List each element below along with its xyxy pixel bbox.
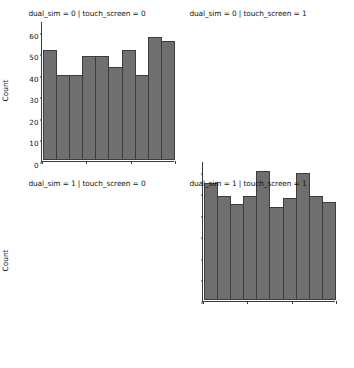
- x-tick-mark: [292, 301, 293, 304]
- x-tick-mark: [336, 301, 337, 304]
- y-tick-label: 50: [29, 54, 42, 61]
- plot-area-0: 0102030405060: [41, 22, 174, 162]
- facet-title-2: dual_sim = 1 | touch_screen = 0: [0, 178, 174, 189]
- bar: [269, 207, 283, 300]
- bar: [296, 173, 310, 300]
- x-tick-mark: [42, 161, 43, 164]
- y-tick-mark: [201, 195, 204, 196]
- y-tick-mark: [201, 173, 204, 174]
- x-tick-mark: [203, 301, 204, 304]
- bar-series-0: [43, 22, 174, 160]
- y-tick-mark: [201, 281, 204, 282]
- y-tick-mark: [201, 216, 204, 217]
- facet-title-0: dual_sim = 0 | touch_screen = 0: [0, 8, 174, 19]
- bar: [95, 56, 109, 160]
- facet-plot-0: 0102030405060: [41, 22, 174, 162]
- y-axis-label-2: Count: [1, 241, 10, 281]
- y-tick-label: 10: [29, 140, 42, 147]
- bar: [161, 41, 175, 160]
- x-tick-mark: [175, 161, 176, 164]
- facet-title-3: dual_sim = 1 | touch_screen = 1: [161, 178, 335, 189]
- bar: [82, 56, 96, 160]
- bar: [309, 196, 323, 300]
- bar: [204, 183, 218, 300]
- y-axis-label-0: Count: [1, 71, 10, 111]
- x-tick-mark: [247, 301, 248, 304]
- bar: [148, 37, 162, 160]
- bar: [322, 202, 336, 300]
- facet-title-1: dual_sim = 0 | touch_screen = 1: [161, 8, 335, 19]
- y-tick-mark: [201, 238, 204, 239]
- x-tick-mark: [86, 161, 87, 164]
- y-tick-label: 30: [29, 97, 42, 104]
- bar: [122, 50, 136, 160]
- bar: [230, 204, 244, 300]
- bar: [217, 196, 231, 300]
- bar: [69, 75, 83, 160]
- y-tick-label: 20: [29, 119, 42, 126]
- bar: [243, 196, 257, 300]
- bar: [43, 50, 57, 160]
- histogram-facet-grid: dual_sim = 0 | touch_screen = 0010203040…: [0, 0, 354, 368]
- bar: [283, 198, 297, 300]
- y-tick-mark: [201, 259, 204, 260]
- bar: [108, 67, 122, 160]
- bar: [256, 171, 270, 301]
- y-tick-label: 0: [34, 162, 42, 169]
- bar: [135, 75, 149, 160]
- y-tick-label: 40: [29, 75, 42, 82]
- y-tick-label: 60: [29, 32, 42, 39]
- x-tick-mark: [131, 161, 132, 164]
- bar: [56, 75, 70, 160]
